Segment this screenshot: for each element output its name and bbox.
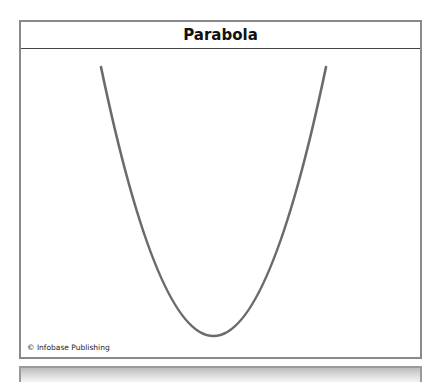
bottom-panel: [19, 366, 422, 382]
parabola-curve: [101, 67, 326, 336]
